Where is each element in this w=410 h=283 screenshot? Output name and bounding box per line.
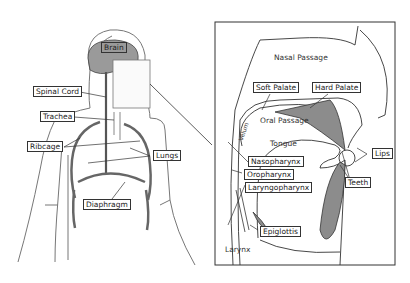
label-laryngopharynx: Laryngopharynx — [245, 182, 312, 193]
label-hard-palate: Hard Palate — [312, 82, 361, 93]
label-soft-palate: Soft Palate — [253, 82, 299, 93]
label-nasal-passage: Nasal Passage — [274, 53, 328, 62]
label-spinal-cord: Spinal Cord — [33, 86, 82, 97]
label-brain: Brain — [101, 42, 127, 53]
label-teeth: Teeth — [345, 177, 371, 188]
label-ribcage: Ribcage — [27, 141, 63, 152]
label-diaphragm: Diaphragm — [83, 199, 131, 210]
label-oropharynx: Oropharynx — [244, 169, 294, 180]
label-oral-passage: Oral Passage — [260, 116, 309, 125]
label-lungs: Lungs — [153, 150, 181, 161]
label-lips: Lips — [372, 148, 393, 159]
label-trachea: Trachea — [40, 111, 75, 122]
label-larynx: Larynx — [225, 245, 251, 254]
label-nasopharynx: Nasopharynx — [248, 156, 304, 167]
label-epiglottis: Epiglottis — [260, 226, 301, 237]
label-tongue: Tongue — [270, 139, 297, 148]
